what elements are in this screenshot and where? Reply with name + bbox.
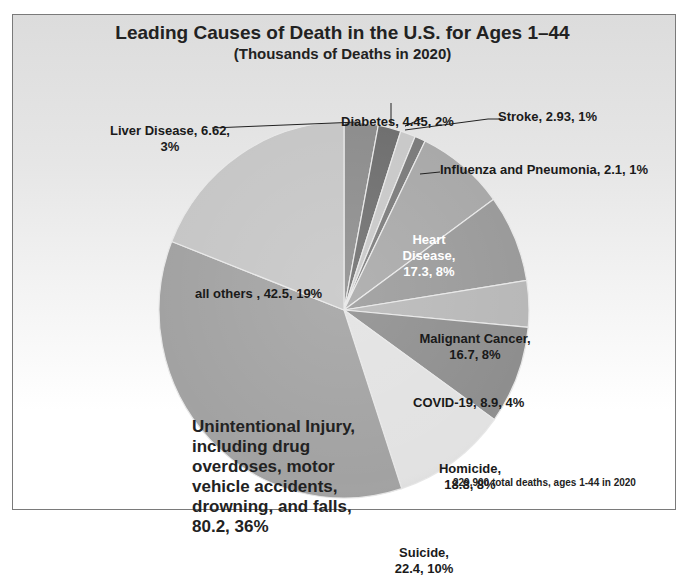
label-heart-line1: Heart bbox=[398, 232, 460, 248]
label-homicide-line1: Homicide, bbox=[434, 461, 506, 477]
footnote: 229,900 total deaths, ages 1-44 in 2020 bbox=[453, 477, 636, 488]
label-cancer-line2: 16.7, 8% bbox=[414, 347, 536, 363]
label-cancer-line1: Malignant Cancer, bbox=[414, 331, 536, 347]
label-covid-19: COVID-19, 8.9, 4% bbox=[413, 395, 524, 411]
label-liver-line1: Liver Disease, 6.62, bbox=[110, 123, 230, 139]
label-suicide: Suicide, 22.4, 10% bbox=[388, 545, 460, 577]
label-unint-line3: overdoses, motor bbox=[192, 457, 355, 477]
label-suicide-line2: 22.4, 10% bbox=[388, 561, 460, 577]
label-unint-line4: vehicle accidents, bbox=[192, 477, 355, 497]
label-unint-line5: drowning, and falls, bbox=[192, 497, 355, 517]
label-heart-line2: Disease, bbox=[398, 248, 460, 264]
label-unintentional-injury: Unintentional Injury, including drug ove… bbox=[192, 417, 355, 537]
label-all-others: all others , 42.5, 19% bbox=[195, 286, 322, 302]
label-stroke: Stroke, 2.93, 1% bbox=[498, 109, 597, 125]
label-unint-line1: Unintentional Injury, bbox=[192, 417, 355, 437]
label-liver-disease: Liver Disease, 6.62, 3% bbox=[110, 123, 230, 155]
label-unint-line6: 80.2, 36% bbox=[192, 517, 355, 537]
label-diabetes: Diabetes, 4.45, 2% bbox=[341, 114, 454, 130]
label-influenza-pneumonia: Influenza and Pneumonia, 2.1, 1% bbox=[440, 162, 648, 178]
label-liver-line2: 3% bbox=[110, 139, 230, 155]
label-suicide-line1: Suicide, bbox=[388, 545, 460, 561]
label-heart-disease: Heart Disease, 17.3, 8% bbox=[398, 232, 460, 280]
label-malignant-cancer: Malignant Cancer, 16.7, 8% bbox=[414, 331, 536, 363]
label-heart-line3: 17.3, 8% bbox=[398, 264, 460, 280]
label-unint-line2: including drug bbox=[192, 437, 355, 457]
